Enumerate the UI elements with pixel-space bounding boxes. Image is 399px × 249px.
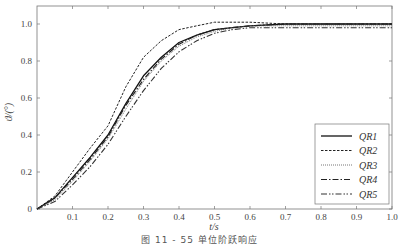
x-tick-label: 0.9 (351, 212, 363, 222)
legend: QR1QR2QR3QR4QR5 (315, 124, 389, 204)
x-tick-label: 0.4 (173, 212, 185, 222)
x-tick-label: 0.7 (280, 212, 292, 222)
figure-caption: 图 11 - 55 单位阶跃响应 (0, 233, 399, 246)
x-tick-label: 0.1 (67, 212, 78, 222)
x-tick-label: 0.6 (244, 212, 256, 222)
legend-label-qr2: QR2 (359, 145, 377, 156)
legend-label-qr4: QR4 (359, 174, 377, 185)
x-tick-label: 0.3 (138, 212, 150, 222)
x-tick-label: 0.8 (315, 212, 327, 222)
y-axis-label: ϑ/(°) (3, 102, 15, 121)
x-tick-label: 0.2 (102, 212, 113, 222)
step-response-chart: 00.20.40.60.81.0 0.10.20.30.40.50.60.70.… (0, 0, 399, 249)
legend-label-qr5: QR5 (359, 189, 377, 200)
y-tick-label: 0.6 (21, 93, 33, 103)
legend-label-qr3: QR3 (359, 160, 377, 171)
y-tick-label: 1.0 (21, 19, 33, 29)
legend-label-qr1: QR1 (359, 131, 377, 142)
x-axis-label: t/s (209, 221, 219, 232)
y-tick-label: 0 (28, 204, 33, 214)
y-tick-label: 0.8 (21, 56, 33, 66)
y-tick-label: 0.4 (21, 130, 33, 140)
y-tick-label: 0.2 (21, 167, 32, 177)
x-tick-label: 1.0 (386, 212, 398, 222)
